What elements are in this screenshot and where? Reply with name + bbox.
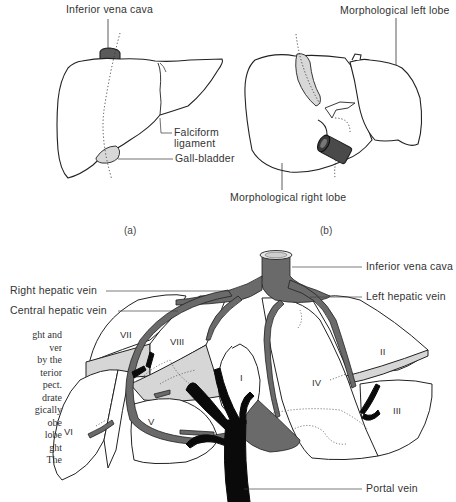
side-text-line: ght and — [0, 329, 62, 342]
label-portal-vein: Portal vein — [366, 482, 418, 494]
side-text-line: terior — [0, 367, 62, 380]
caption-b: (b) — [320, 225, 332, 236]
segment-label-II: II — [380, 346, 385, 357]
side-caption-text: ght and ver by the terior pect. drate gi… — [0, 329, 62, 467]
label-morphological-left-lobe: Morphological left lobe — [340, 4, 450, 16]
label-inferior-vena-cava-a: Inferior vena cava — [66, 3, 153, 15]
segment-label-VIII: VIII — [170, 336, 184, 347]
label-gall-bladder: Gall-bladder — [175, 152, 235, 164]
segment-label-IV: IV — [312, 377, 321, 388]
side-text-line: obe — [0, 417, 62, 430]
label-falciform-ligament-line2: ligament — [174, 137, 215, 149]
segment-label-V: V — [148, 416, 154, 427]
segment-label-VII: VII — [120, 329, 132, 340]
figure-b-liver-inferior — [245, 18, 422, 190]
side-text-line: ght — [0, 442, 62, 455]
label-right-hepatic-vein: Right hepatic vein — [10, 284, 97, 296]
side-text-line: by the — [0, 354, 62, 367]
side-text-line: The — [0, 454, 62, 467]
caption-a: (a) — [124, 225, 136, 236]
label-central-hepatic-vein: Central hepatic vein — [10, 304, 107, 316]
side-text-line: drate — [0, 392, 62, 405]
side-text-line: pect. — [0, 379, 62, 392]
segment-label-I: I — [240, 372, 243, 383]
side-text-line: gically — [0, 404, 62, 417]
side-text-line: ver — [0, 342, 62, 355]
label-inferior-vena-cava-c: Inferior vena cava — [366, 260, 453, 272]
segment-label-VI: VI — [64, 426, 73, 437]
segment-label-III: III — [393, 405, 401, 416]
label-morphological-right-lobe: Morphological right lobe — [230, 191, 346, 203]
label-left-hepatic-vein: Left hepatic vein — [366, 290, 446, 302]
side-text-line: lobe — [0, 429, 62, 442]
